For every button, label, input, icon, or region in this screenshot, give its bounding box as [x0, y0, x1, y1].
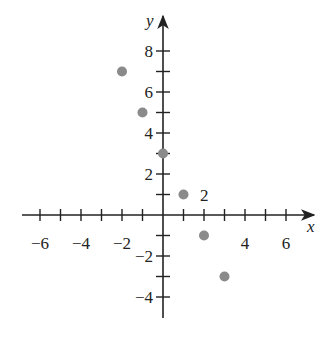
- data-point: [138, 108, 148, 118]
- point-annotation: 2: [200, 186, 209, 205]
- y-tick-label: 4: [145, 124, 154, 143]
- y-tick-label: 6: [145, 83, 154, 102]
- data-point: [199, 231, 209, 241]
- data-point: [158, 149, 168, 159]
- x-tick-label: 6: [282, 234, 291, 253]
- y-tick-label: 2: [145, 165, 154, 184]
- data-points: [117, 67, 230, 282]
- x-tick-label: −4: [72, 234, 91, 253]
- data-point: [179, 190, 189, 200]
- y-axis-label: y: [144, 11, 154, 30]
- y-tick-label: 8: [145, 42, 154, 61]
- y-tick-label: −4: [135, 288, 154, 307]
- tick-labels: xy−6−4−2468642−2−4: [31, 11, 315, 307]
- y-tick-label: −2: [135, 247, 153, 266]
- x-tick-label: −6: [31, 234, 49, 253]
- data-point: [220, 272, 230, 282]
- annotations: 2: [200, 186, 209, 205]
- axes: [22, 16, 314, 318]
- x-tick-label: −2: [113, 234, 131, 253]
- data-point: [117, 67, 127, 77]
- scatter-plot: xy−6−4−2468642−2−4 2: [0, 0, 330, 337]
- x-tick-label: 4: [241, 234, 250, 253]
- x-axis-label: x: [306, 217, 315, 236]
